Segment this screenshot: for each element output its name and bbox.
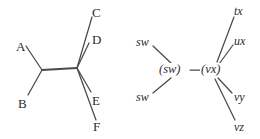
edge-m2-ux xyxy=(219,45,233,64)
edge-n1-A xyxy=(26,46,42,70)
leaf-label-vy: vy xyxy=(234,91,245,103)
leaf-label-B: B xyxy=(18,97,27,110)
leaf-label-E: E xyxy=(92,94,100,107)
leaf-label-F: F xyxy=(93,120,100,133)
leaf-label-C: C xyxy=(92,6,101,19)
leaf-label-vz: vz xyxy=(234,121,244,133)
left-tree-edges xyxy=(26,17,96,120)
edge-n1-B xyxy=(28,70,42,95)
edge-m1-sw-bottom xyxy=(153,78,171,93)
edge-m1-sw-top xyxy=(153,46,171,63)
leaf-label-A: A xyxy=(16,40,25,53)
internal-node-label-vx: (vx) xyxy=(200,63,221,76)
leaf-label-D: D xyxy=(92,33,101,46)
tree-figure: A B C D E F sw sw tx ux vy vz (sw) (vx) xyxy=(0,0,260,139)
leaf-label-sw-top: sw xyxy=(136,36,149,48)
edge-n1-n2 xyxy=(42,68,77,70)
leaf-label-sw-bottom: sw xyxy=(136,91,149,103)
leaf-label-ux: ux xyxy=(234,35,245,47)
leaf-label-tx: tx xyxy=(234,5,243,17)
edge-n2-C xyxy=(77,17,92,68)
internal-node-label-sw: (sw) xyxy=(158,63,182,76)
